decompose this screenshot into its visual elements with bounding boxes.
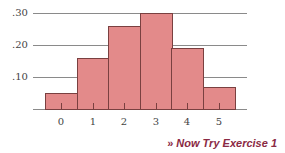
x-tick-label-1: 1 — [85, 116, 101, 127]
x-tick-5 — [219, 103, 220, 109]
bar-2 — [108, 26, 141, 110]
x-tick-label-3: 3 — [148, 116, 164, 127]
y-tick-label-20: .20 — [12, 39, 28, 50]
y-tick-label-30: .30 — [12, 7, 28, 18]
x-tick-label-2: 2 — [116, 116, 132, 127]
now-try-exercise-label: Now Try Exercise 1 — [176, 137, 277, 149]
x-tick-label-0: 0 — [53, 116, 69, 127]
y-tick-label-10: .10 — [12, 71, 28, 82]
x-tick-4 — [187, 103, 188, 109]
x-tick-3 — [156, 103, 157, 109]
x-tick-0 — [61, 103, 62, 109]
bar-3 — [140, 13, 173, 110]
now-try-exercise-link[interactable]: »Now Try Exercise 1 — [167, 137, 277, 149]
x-tick-2 — [124, 103, 125, 109]
double-chevron-icon: » — [167, 137, 173, 149]
x-tick-label-4: 4 — [179, 116, 195, 127]
x-tick-1 — [93, 103, 94, 109]
histogram-chart: .30 .20 .10 012345 — [0, 0, 285, 130]
bar-4 — [171, 48, 204, 110]
x-tick-label-5: 5 — [211, 116, 227, 127]
